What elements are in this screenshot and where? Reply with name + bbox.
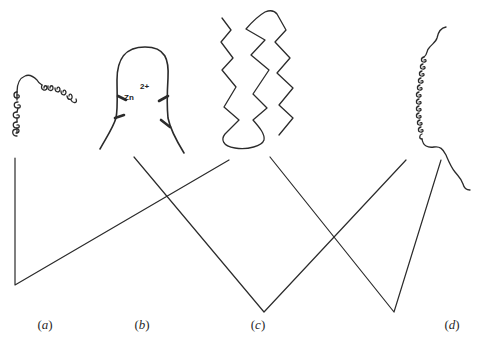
panel-b-zinc-finger [100, 47, 184, 153]
panel-label-c: (c) [251, 317, 265, 333]
zinc-ion-charge: 2+ [140, 82, 149, 91]
panel-label-d: (d) [444, 317, 459, 333]
connector-lines [15, 157, 441, 312]
zinc-ion-symbol: Zn [124, 93, 134, 102]
connector-b-c [134, 157, 406, 312]
panel-a-helix [13, 75, 77, 136]
connector-c-d [270, 157, 441, 312]
diagram-canvas: Zn 2+ [0, 0, 489, 339]
diagram-figure: Zn 2+ (a) (b) (c) (d) [0, 0, 489, 339]
panel-label-b: (b) [134, 317, 149, 333]
panel-label-a: (a) [37, 317, 52, 333]
panel-d-coil [416, 27, 470, 190]
connector-a [15, 158, 229, 285]
panel-c-beta-strands [221, 11, 293, 149]
